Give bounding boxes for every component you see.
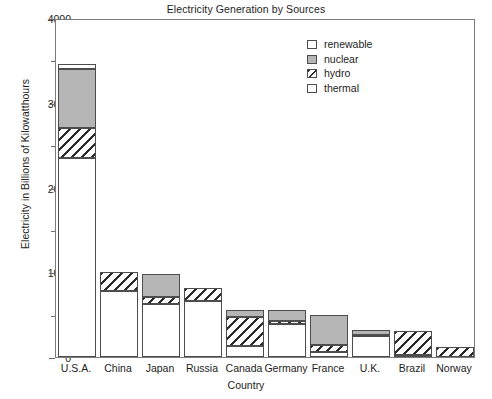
legend-swatch-renewable-icon [307,40,317,49]
legend-swatch-nuclear-icon [307,55,317,64]
bar-norway [436,18,475,357]
x-tick-label: Canada [226,362,263,374]
bar-germany [268,18,307,357]
segment-hydro [100,272,139,291]
chart-page: Electricity Generation by Sources Electr… [0,0,492,399]
bar-china [100,18,139,357]
segment-nuclear [58,69,97,128]
segment-nuclear [226,310,265,318]
chart-legend: renewablenuclearhydrothermal [307,38,372,96]
chart-title: Electricity Generation by Sources [0,3,492,15]
x-tick-label: Russia [186,362,218,374]
segment-thermal [184,301,223,357]
bar-usa [58,18,97,357]
x-tick-label: France [312,362,345,374]
x-tick-label: Germany [264,362,307,374]
legend-label: thermal [324,82,359,96]
legend-swatch-thermal-icon [307,84,317,93]
legend-label: nuclear [324,53,358,67]
segment-thermal [58,158,97,357]
segment-nuclear [142,274,181,296]
legend-swatch-hydro-icon [307,69,317,78]
legend-label: hydro [324,67,350,81]
segment-thermal [226,346,265,357]
segment-thermal [142,304,181,357]
segment-nuclear [352,330,391,335]
segment-hydro [310,345,349,352]
segment-nuclear [268,310,307,321]
x-tick-label: U.K. [360,362,380,374]
segment-thermal [310,352,349,357]
segment-thermal [268,324,307,357]
segment-renewable [58,64,97,69]
plot-area [55,19,475,358]
y-tick-mark [49,358,55,359]
legend-item-thermal: thermal [307,82,372,96]
x-tick-label: Japan [146,362,175,374]
segment-hydro [394,331,433,356]
y-axis: Electricity in Billions of Kilowatthours [0,0,55,399]
segment-hydro [58,128,97,158]
segment-hydro [226,317,265,346]
segment-hydro [268,321,307,324]
segment-thermal [100,291,139,357]
legend-item-nuclear: nuclear [307,53,372,67]
legend-label: renewable [324,38,372,52]
segment-hydro [142,297,181,305]
segment-thermal [352,336,391,357]
x-axis-label: Country [0,379,492,391]
bar-japan [142,18,181,357]
x-tick-label: China [104,362,131,374]
x-tick-label: Norway [436,362,472,374]
segment-hydro [184,288,223,302]
bar-canada [226,18,265,357]
legend-item-hydro: hydro [307,67,372,81]
bar-brazil [394,18,433,357]
segment-nuclear [310,315,349,346]
legend-item-renewable: renewable [307,38,372,52]
x-tick-label: U.S.A. [61,362,91,374]
y-axis-label: Electricity in Billions of Kilowatthours [19,44,31,284]
bar-russia [184,18,223,357]
segment-hydro [436,347,475,357]
x-tick-label: Brazil [399,362,425,374]
